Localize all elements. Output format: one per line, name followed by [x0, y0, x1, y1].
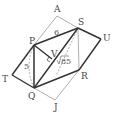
geometry-diagram: A S U P V T Q R J 6 5 85	[0, 0, 114, 118]
measure-PS: 6	[54, 28, 59, 37]
label-V: V	[50, 49, 58, 59]
label-R: R	[81, 71, 88, 81]
label-U: U	[103, 33, 111, 43]
label-J: J	[53, 102, 58, 112]
label-S: S	[78, 17, 84, 27]
label-A: A	[53, 4, 61, 14]
segment-QT	[12, 75, 34, 88]
label-Q: Q	[28, 91, 35, 101]
measure-PQ: 5	[24, 62, 29, 71]
segment-SR	[78, 28, 79, 70]
segment-PV	[34, 45, 52, 59]
measure-QS: 85	[57, 56, 71, 66]
segment-TP	[12, 45, 34, 75]
segment-AS	[57, 16, 78, 28]
label-T: T	[2, 74, 8, 84]
measure-QS-radicand: 85	[61, 57, 71, 66]
label-P: P	[29, 36, 35, 46]
segment-UR	[79, 39, 101, 70]
segment-SU	[78, 28, 101, 39]
segment-QJ	[34, 88, 55, 100]
